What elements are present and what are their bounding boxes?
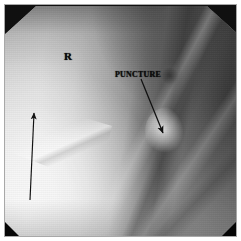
image-frame: R PUNCTURE (4, 4, 237, 237)
laterality-marker-r: R (64, 51, 72, 62)
fluoroscopy-field (5, 6, 236, 236)
radiograph-canvas: R PUNCTURE (5, 5, 236, 236)
puncture-text-label: PUNCTURE (115, 71, 161, 79)
film-grain-layer (5, 6, 236, 236)
radiograph-figure: R PUNCTURE (0, 0, 241, 241)
